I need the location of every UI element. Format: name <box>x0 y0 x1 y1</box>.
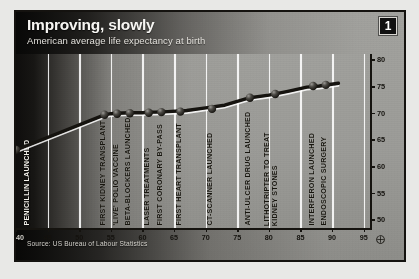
x-tick <box>206 228 207 232</box>
x-tick-label: 85 <box>296 233 304 242</box>
annotation-text: PENICILLIN LAUNCHED <box>24 140 32 226</box>
x-tick <box>111 228 112 232</box>
annotation-label: CT-SCANNER LAUNCHED <box>208 133 216 226</box>
plot-area: PENICILLIN LAUNCHEDFIRST KIDNEY TRANSPLA… <box>16 54 370 230</box>
x-tick-label: 55 <box>107 233 115 242</box>
x-tick <box>237 228 238 232</box>
annotation-label: BETA-BLOCKERS LAUNCHED <box>126 118 134 226</box>
y-tick <box>370 59 375 61</box>
chart-footer: Source: US Bureau of Labour Statistics <box>16 230 404 260</box>
x-tick <box>269 228 270 232</box>
x-tick <box>142 228 143 232</box>
annotation-text: FIRST CORONARY BY-PASS <box>156 124 164 226</box>
annotation-label: FIRST CORONARY BY-PASS <box>157 124 165 226</box>
y-axis-spine <box>370 54 372 230</box>
annotation-text: ANTI-ULCER DRUG LAUNCHED <box>245 112 253 226</box>
x-axis: 19404550556065707580859095 <box>16 228 370 230</box>
gridline-75 <box>237 54 239 230</box>
x-tick-label: 65 <box>170 233 178 242</box>
data-point-marker <box>157 108 165 116</box>
y-tick-label: 60 <box>377 162 385 171</box>
y-tick-label: 50 <box>377 215 385 224</box>
x-tick-label: 45 <box>44 233 52 242</box>
page-title: Improving, slowly <box>27 16 155 34</box>
annotation-text: 'LIVE' POLIO VACCINE <box>112 144 120 226</box>
y-tick <box>370 113 375 115</box>
data-point-marker <box>208 105 216 113</box>
x-tick-label: 70 <box>202 233 210 242</box>
annotation-text: FIRST HEART TRANSPLANT <box>175 124 183 226</box>
y-tick-label: 65 <box>377 135 385 144</box>
gridline-85 <box>300 54 302 230</box>
data-point-marker <box>126 109 134 117</box>
x-tick <box>332 228 333 232</box>
x-tick-label: 95 <box>360 233 368 242</box>
chart-header: Improving, slowly American average life … <box>16 12 404 54</box>
y-tick <box>370 166 375 168</box>
annotation-text-line2: KIDNEY STONES <box>271 132 279 226</box>
x-tick <box>16 228 17 232</box>
y-tick-label: 70 <box>377 108 385 117</box>
data-point-marker <box>309 82 317 90</box>
x-tick-label: 75 <box>233 233 241 242</box>
annotation-label: LASER TREATMENTS <box>145 148 153 226</box>
data-point-marker <box>16 146 20 154</box>
y-tick <box>370 139 375 141</box>
annotation-text: INTERFERON LAUNCHED <box>308 133 316 226</box>
x-tick <box>364 228 365 232</box>
y-tick <box>370 193 375 195</box>
data-point-marker <box>271 90 279 98</box>
annotation-label: FIRST KIDNEY TRANSPLANT <box>100 121 108 226</box>
annotation-text: BETA-BLOCKERS LAUNCHED <box>125 118 133 226</box>
y-axis-break-symbol: ⨁ <box>376 234 385 244</box>
annotation-label: ENDOSCOPIC SURGERY <box>322 137 330 226</box>
figure-number-badge: 1 <box>379 17 397 35</box>
y-tick-label: 55 <box>377 188 385 197</box>
chart-figure: Improving, slowly American average life … <box>14 10 406 262</box>
annotation-text: LITHOTRIPTER TO TREAT <box>262 132 270 226</box>
y-tick <box>370 86 375 88</box>
annotation-text: ENDOSCOPIC SURGERY <box>321 137 329 226</box>
gridline-90 <box>332 54 334 230</box>
data-point-marker <box>145 109 153 117</box>
x-tick-label: 1940 <box>14 233 24 242</box>
x-tick <box>300 228 301 232</box>
data-point-marker <box>246 94 254 102</box>
data-point-marker <box>113 110 121 118</box>
y-tick-label: 75 <box>377 82 385 91</box>
y-tick <box>370 219 375 221</box>
annotation-label: FIRST HEART TRANSPLANT <box>176 124 184 226</box>
annotation-text: LASER TREATMENTS <box>144 148 152 226</box>
data-point-marker <box>100 111 108 119</box>
x-tick-label: 80 <box>265 233 273 242</box>
y-tick-label: 80 <box>377 55 385 64</box>
annotation-label: PENICILLIN LAUNCHED <box>25 140 33 226</box>
gridline-95 <box>364 54 366 230</box>
annotation-text: CT-SCANNER LAUNCHED <box>207 133 215 226</box>
x-tick <box>79 228 80 232</box>
annotation-text: FIRST KIDNEY TRANSPLANT <box>99 121 107 226</box>
x-tick-label: 50 <box>75 233 83 242</box>
chart-subtitle: American average life expectancy at birt… <box>27 35 205 46</box>
y-axis: 80757065605550⨁ <box>370 54 404 230</box>
x-tick <box>48 228 49 232</box>
x-tick <box>174 228 175 232</box>
gridline-45 <box>48 54 50 230</box>
data-point-marker <box>322 81 330 89</box>
annotation-label: ANTI-ULCER DRUG LAUNCHED <box>246 112 254 226</box>
gridline-50 <box>79 54 81 230</box>
x-tick-label: 60 <box>138 233 146 242</box>
annotation-label: 'LIVE' POLIO VACCINE <box>113 144 121 226</box>
annotation-label: INTERFERON LAUNCHED <box>309 133 317 226</box>
data-point-marker <box>176 107 184 115</box>
annotation-label: LITHOTRIPTER TO TREATKIDNEY STONES <box>263 132 278 226</box>
x-tick-label: 90 <box>328 233 336 242</box>
